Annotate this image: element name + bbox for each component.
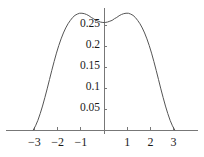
y-tick-label: 0.25 — [80, 17, 100, 29]
axes-group — [6, 8, 198, 134]
y-tick-label: 0.2 — [86, 38, 100, 50]
density-plot: 0.050.10.150.20.25 −3−2−1123 — [0, 0, 204, 157]
y-tick-label: 0.1 — [86, 80, 100, 92]
y-tick-label: 0.15 — [80, 59, 100, 71]
plot-canvas — [0, 0, 204, 157]
x-tick-label: −1 — [67, 135, 95, 150]
x-tick-label: 3 — [160, 135, 188, 150]
y-tick-label: 0.05 — [80, 101, 100, 113]
